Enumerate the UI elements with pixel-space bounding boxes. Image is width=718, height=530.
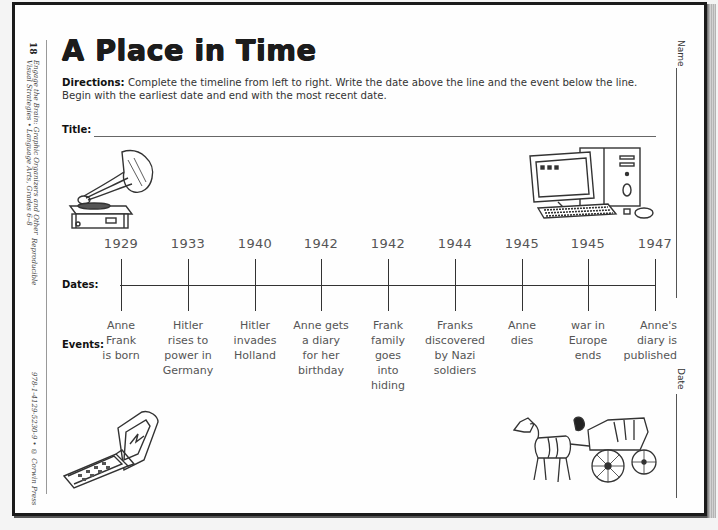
- timeline-tick: [522, 259, 523, 311]
- timeline-event: HitlerinvadesHolland: [219, 318, 291, 363]
- timeline-tick: [455, 259, 456, 311]
- date-label: Date: [676, 368, 686, 390]
- timeline-date: 1940: [225, 236, 285, 251]
- book-title-line1: Engage the Brain: Graphic Organizers and…: [32, 60, 40, 235]
- timeline-event: AnneFrankis born: [85, 318, 157, 363]
- timeline-tick: [255, 259, 256, 311]
- timeline-tick: [588, 259, 589, 311]
- title-field-line[interactable]: [94, 136, 656, 137]
- timeline-event: Anne getsa diaryfor herbirthday: [285, 318, 357, 378]
- date-field-line[interactable]: [676, 394, 677, 498]
- left-margin-rule: [46, 40, 47, 494]
- timeline-date: 1945: [558, 236, 618, 251]
- timeline-date: 1942: [291, 236, 351, 251]
- timeline-tick: [388, 259, 389, 311]
- horse-carriage-icon: [508, 410, 658, 490]
- timeline-event: Franksdiscoveredby Nazisoldiers: [419, 318, 491, 378]
- phonograph-icon: [62, 144, 158, 234]
- directions-text: Complete the timeline from left to right…: [62, 77, 637, 101]
- page-title: A Place in Time: [62, 34, 316, 67]
- reproducible-label: Reproducible: [30, 238, 38, 285]
- timeline-tick: [121, 259, 122, 311]
- isbn-copyright: 978-1-4129-5230-9 • © Corwin Press: [30, 372, 38, 505]
- timeline-date: 1929: [91, 236, 151, 251]
- directions: Directions: Complete the timeline from l…: [62, 76, 666, 102]
- title-field-label: Title:: [62, 124, 91, 135]
- timeline-event: Anne'sdiary ispublished: [605, 318, 677, 363]
- dates-label: Dates:: [62, 279, 99, 290]
- timeline-tick: [321, 259, 322, 311]
- timeline-event: Annedies: [486, 318, 558, 348]
- timeline-date: 1944: [425, 236, 485, 251]
- timeline-date: 1947: [625, 236, 685, 251]
- timeline-event: Hitlerrises topower inGermany: [152, 318, 224, 378]
- desktop-computer-icon: [524, 146, 658, 222]
- timeline-event: Frankfamilygoesintohiding: [352, 318, 424, 393]
- book-title-line2: Visual Strategies • Language Arts, Grade…: [25, 60, 33, 226]
- flip-phone-icon: [60, 408, 164, 492]
- name-field-line[interactable]: [676, 68, 677, 298]
- timeline-date: 1945: [492, 236, 552, 251]
- timeline-tick: [188, 259, 189, 311]
- timeline-date: 1942: [358, 236, 418, 251]
- timeline-tick: [655, 259, 656, 311]
- page-number: 18: [28, 42, 38, 55]
- directions-label: Directions:: [62, 77, 125, 88]
- page-edge-shadow: [707, 4, 716, 518]
- name-label: Name: [676, 40, 686, 67]
- timeline-date: 1933: [158, 236, 218, 251]
